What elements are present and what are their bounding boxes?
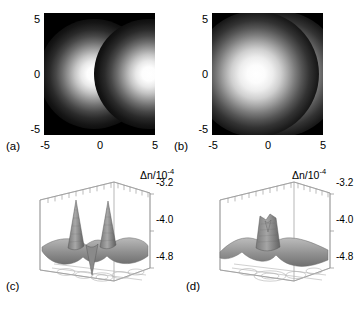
x-tick-b-mid: 0: [257, 140, 279, 151]
panel-c: (c): [28, 176, 158, 296]
z-tick-d-mid: -4.0: [336, 215, 353, 225]
y-tick-a-bottom: -5: [16, 124, 40, 135]
y-tick-b-mid: 0: [188, 69, 208, 80]
surface-plot-d: [208, 176, 338, 296]
panel-d: (d): [208, 176, 338, 296]
y-tick-b-top: 5: [188, 14, 208, 25]
z-tick-d-top: -3.2: [336, 178, 353, 188]
y-tick-b-bottom: -5: [184, 124, 208, 135]
z-ticks-c: [150, 194, 154, 268]
z-tick-c-bottom: -4.8: [156, 252, 173, 262]
panel-label-b: (b): [174, 140, 188, 152]
axis-box-c: [40, 182, 150, 281]
intensity-image-a: [44, 13, 155, 135]
panel-label-c: (c): [6, 280, 19, 292]
panel-label-d: (d): [186, 280, 200, 292]
z-axis-label-d-exponent: -4: [319, 167, 326, 176]
x-tick-a-right: 5: [144, 140, 166, 151]
x-tick-a-left: -5: [34, 140, 56, 151]
z-tick-c-mid: -4.0: [156, 215, 173, 225]
x-tick-b-right: 5: [312, 140, 334, 151]
y-tick-a-mid: 0: [20, 69, 40, 80]
x-tick-a-mid: 0: [89, 140, 111, 151]
x-tick-b-left: -5: [202, 140, 224, 151]
z-axis-label-c-exponent: -4: [167, 167, 174, 176]
intensity-image-b: [212, 13, 323, 135]
z-axis-label-d-text: Δn/10: [292, 169, 319, 181]
y-tick-a-top: 5: [20, 14, 40, 25]
surface-plot-c: [28, 176, 158, 296]
z-tick-d-bottom: -4.8: [336, 252, 353, 262]
z-tick-c-top: -3.2: [156, 178, 173, 188]
panel-label-a: (a): [6, 140, 20, 152]
z-axis-label-d: Δn/10-4: [292, 166, 326, 181]
z-ticks-d: [330, 194, 334, 268]
